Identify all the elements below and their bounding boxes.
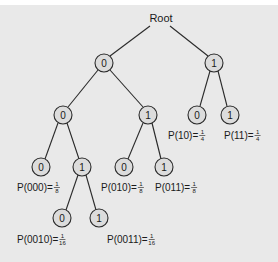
binary-tree-diagram: Root 010101010101 P(10)=14P(11)=14P(000)… — [0, 0, 278, 262]
fraction-numerator: 1 — [256, 129, 260, 135]
fraction-numerator: 1 — [139, 181, 143, 187]
edge-001-0011 — [86, 175, 96, 210]
probability-text: P(011)= — [155, 182, 190, 193]
node-label: 1 — [96, 213, 102, 224]
probability-text: P(010)= — [101, 182, 137, 193]
edge-001-0010 — [66, 175, 78, 210]
fraction-numerator: 1 — [55, 181, 59, 187]
edge-1-11 — [218, 71, 227, 106]
tree-node-0: 0 — [95, 54, 113, 72]
tree-node-0011: 1 — [90, 209, 108, 227]
tree-node-010: 0 — [115, 158, 133, 176]
node-label: 0 — [59, 213, 65, 224]
node-label: 1 — [145, 110, 151, 121]
fraction-denominator: 8 — [192, 188, 196, 194]
probability-label: P(10)=14 — [168, 129, 205, 142]
tree-node-000: 0 — [32, 158, 50, 176]
fraction-numerator: 1 — [192, 181, 196, 187]
tree-node-0010: 0 — [53, 209, 71, 227]
fraction-denominator: 4 — [256, 136, 260, 142]
probability-label: P(11)=14 — [224, 129, 261, 142]
root-label: Root — [149, 12, 172, 24]
edge-root-1 — [170, 26, 208, 56]
node-label: 0 — [60, 110, 66, 121]
probability-text: P(11)= — [224, 130, 254, 141]
edge-00-001 — [67, 123, 79, 159]
probability-label: P(010)=18 — [101, 181, 144, 194]
probability-text: P(0011)= — [107, 234, 148, 245]
edge-01-010 — [128, 123, 143, 159]
probability-label: P(000)=18 — [17, 181, 60, 194]
probability-label: P(0011)=116 — [107, 233, 156, 246]
node-label: 1 — [161, 162, 167, 173]
probability-text: P(10)= — [168, 130, 198, 141]
fraction-denominator: 16 — [59, 240, 66, 246]
tree-node-01: 1 — [139, 106, 157, 124]
node-label: 0 — [101, 58, 107, 69]
edge-0-00 — [68, 70, 98, 107]
probability-label: P(011)=18 — [155, 181, 197, 194]
node-label: 0 — [121, 162, 127, 173]
fraction-denominator: 16 — [148, 240, 155, 246]
fraction-numerator: 1 — [150, 233, 154, 239]
node-label: 1 — [211, 58, 217, 69]
node-label: 0 — [38, 162, 44, 173]
tree-node-1: 1 — [205, 54, 223, 72]
fraction-denominator: 8 — [139, 188, 143, 194]
fraction-numerator: 1 — [61, 233, 65, 239]
edge-root-0 — [110, 26, 150, 56]
tree-node-10: 0 — [188, 106, 206, 124]
probability-label: P(0010)=116 — [17, 233, 66, 246]
edge-0-01 — [110, 70, 143, 107]
node-label: 1 — [79, 162, 85, 173]
fraction-numerator: 1 — [201, 129, 205, 135]
tree-node-00: 0 — [54, 106, 72, 124]
node-label: 1 — [227, 110, 233, 121]
probability-labels: P(10)=14P(11)=14P(000)=18P(010)=18P(011)… — [17, 129, 261, 246]
tree-node-11: 1 — [221, 106, 239, 124]
tree-node-001: 1 — [73, 158, 91, 176]
fraction-denominator: 8 — [55, 188, 59, 194]
fraction-denominator: 4 — [201, 136, 205, 142]
edge-00-000 — [45, 123, 58, 159]
probability-text: P(0010)= — [17, 234, 59, 245]
tree-node-011: 1 — [155, 158, 173, 176]
edge-1-10 — [200, 71, 210, 106]
node-label: 0 — [194, 110, 200, 121]
probability-text: P(000)= — [17, 182, 53, 193]
edge-01-011 — [152, 123, 161, 159]
